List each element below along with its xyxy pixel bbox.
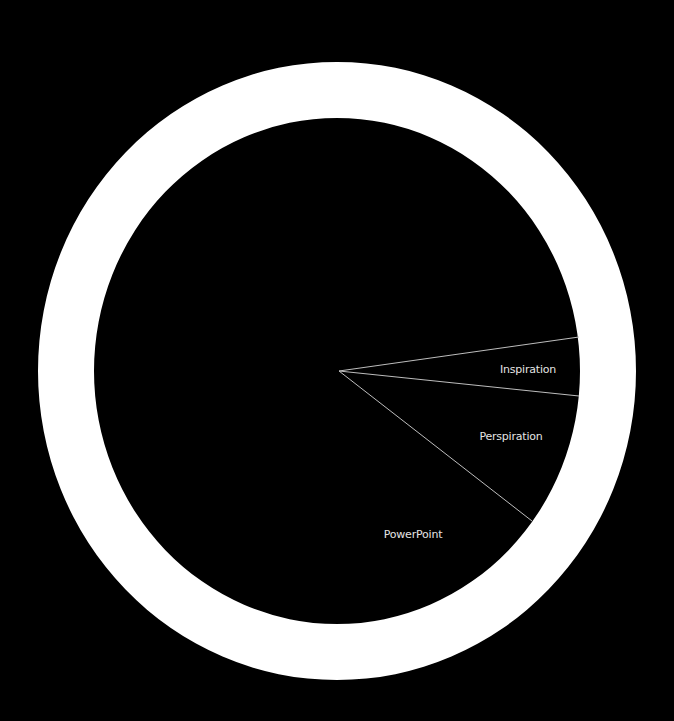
slice-divider-perspiration-powerpoint — [339, 371, 532, 521]
slice-label-perspiration: Perspiration — [479, 430, 542, 443]
slice-label-inspiration: Inspiration — [500, 363, 556, 376]
slice-label-powerpoint: PowerPoint — [384, 528, 443, 541]
pie-chart — [0, 0, 674, 721]
